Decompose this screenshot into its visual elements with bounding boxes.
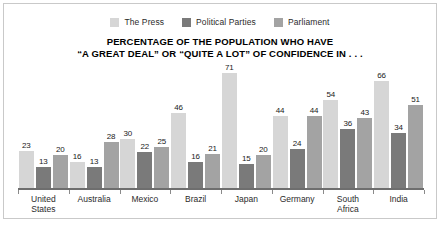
bar bbox=[273, 116, 288, 188]
chart-title-line-2: “A GREAT DEAL” OR “QUITE A LOT” OF CONFI… bbox=[4, 48, 436, 60]
bar-column: 24 bbox=[290, 66, 305, 188]
bar-value-label: 28 bbox=[107, 132, 116, 141]
bar-column: 23 bbox=[19, 66, 34, 188]
bar-value-label: 13 bbox=[39, 157, 48, 166]
bar-column: 28 bbox=[104, 66, 119, 188]
bar-value-label: 46 bbox=[174, 103, 183, 112]
x-axis-label-line: Australia bbox=[69, 194, 120, 204]
bar-column: 44 bbox=[307, 66, 322, 188]
x-axis-category-labels: UnitedStatesAustraliaMexicoBrazilJapanGe… bbox=[18, 194, 424, 214]
bar-column: 46 bbox=[171, 66, 186, 188]
x-axis-label-united-states: UnitedStates bbox=[18, 194, 69, 214]
bar-group: 231320 bbox=[18, 66, 69, 188]
legend-item-the-press: The Press bbox=[110, 17, 164, 27]
bar bbox=[137, 152, 152, 188]
bar-value-label: 16 bbox=[73, 152, 82, 161]
chart-title: PERCENTAGE OF THE POPULATION WHO HAVE “A… bbox=[4, 36, 436, 59]
bar bbox=[205, 154, 220, 188]
legend-swatch-icon bbox=[274, 18, 283, 27]
chart-title-line-1: PERCENTAGE OF THE POPULATION WHO HAVE bbox=[4, 36, 436, 48]
bar-value-label: 30 bbox=[123, 129, 132, 138]
x-axis-label-line: Japan bbox=[221, 194, 272, 204]
bar-column: 66 bbox=[374, 66, 389, 188]
bar-value-label: 34 bbox=[394, 123, 403, 132]
bar-value-label: 22 bbox=[140, 142, 149, 151]
legend-swatch-icon bbox=[182, 18, 191, 27]
bar-column: 44 bbox=[273, 66, 288, 188]
bar bbox=[188, 162, 203, 188]
x-axis-label-line: South bbox=[323, 194, 374, 204]
bar-column: 71 bbox=[222, 66, 237, 188]
x-axis-label-south-africa: SouthAfrica bbox=[323, 194, 374, 214]
x-axis-label-line: India bbox=[373, 194, 424, 204]
bar bbox=[171, 113, 186, 188]
bar-column: 51 bbox=[408, 66, 423, 188]
x-axis-label-line: Africa bbox=[323, 204, 374, 214]
legend-label: Parliament bbox=[288, 17, 330, 27]
bar bbox=[340, 129, 355, 188]
bar-value-label: 20 bbox=[259, 145, 268, 154]
bar-group: 161328 bbox=[69, 66, 120, 188]
bar-group: 461621 bbox=[170, 66, 221, 188]
bar-column: 20 bbox=[53, 66, 68, 188]
bar bbox=[154, 147, 169, 188]
x-axis-label-australia: Australia bbox=[69, 194, 120, 214]
bar bbox=[222, 73, 237, 188]
bar bbox=[87, 167, 102, 188]
bar-column: 16 bbox=[70, 66, 85, 188]
bar-value-label: 66 bbox=[377, 71, 386, 80]
bar-column: 54 bbox=[323, 66, 338, 188]
bar-value-label: 44 bbox=[276, 106, 285, 115]
bar bbox=[357, 118, 372, 188]
bar bbox=[290, 149, 305, 188]
bar-value-label: 36 bbox=[343, 119, 352, 128]
x-axis-label-line: Brazil bbox=[170, 194, 221, 204]
bar-column: 13 bbox=[87, 66, 102, 188]
bar-value-label: 23 bbox=[22, 141, 31, 150]
plot-area: 2313201613283022254616217115204424445436… bbox=[18, 66, 424, 188]
bar-value-label: 54 bbox=[326, 90, 335, 99]
bar-column: 20 bbox=[256, 66, 271, 188]
bar-value-label: 13 bbox=[90, 157, 99, 166]
x-axis-label-germany: Germany bbox=[272, 194, 323, 214]
bar bbox=[70, 162, 85, 188]
bar-value-label: 51 bbox=[411, 95, 420, 104]
bar-value-label: 44 bbox=[310, 106, 319, 115]
chart-legend: The PressPolitical PartiesParliament bbox=[4, 17, 436, 27]
bar bbox=[256, 155, 271, 188]
bar-group: 663451 bbox=[373, 66, 424, 188]
legend-label: The Press bbox=[124, 17, 164, 27]
bar-groups: 2313201613283022254616217115204424445436… bbox=[18, 66, 424, 188]
bar bbox=[53, 155, 68, 188]
bar bbox=[323, 100, 338, 188]
bar-group: 711520 bbox=[221, 66, 272, 188]
legend-swatch-icon bbox=[110, 18, 119, 27]
bar-column: 25 bbox=[154, 66, 169, 188]
x-axis-label-line: United bbox=[18, 194, 69, 204]
bar bbox=[374, 81, 389, 188]
bar-value-label: 25 bbox=[157, 137, 166, 146]
legend-item-parliament: Parliament bbox=[274, 17, 330, 27]
legend-label: Political Parties bbox=[196, 17, 256, 27]
x-axis-label-india: India bbox=[373, 194, 424, 214]
x-axis-label-brazil: Brazil bbox=[170, 194, 221, 214]
bar-value-label: 43 bbox=[360, 108, 369, 117]
bar-column: 43 bbox=[357, 66, 372, 188]
x-axis-label-line: Mexico bbox=[120, 194, 171, 204]
bar-column: 22 bbox=[137, 66, 152, 188]
bar-value-label: 71 bbox=[225, 63, 234, 72]
bar-value-label: 20 bbox=[56, 145, 65, 154]
bar-column: 16 bbox=[188, 66, 203, 188]
legend-item-political-parties: Political Parties bbox=[182, 17, 256, 27]
bar-column: 13 bbox=[36, 66, 51, 188]
bar-value-label: 16 bbox=[191, 152, 200, 161]
bar bbox=[391, 133, 406, 188]
bar bbox=[307, 116, 322, 188]
x-axis-label-line: States bbox=[18, 204, 69, 214]
bar-value-label: 24 bbox=[293, 139, 302, 148]
bar-group: 302225 bbox=[120, 66, 171, 188]
x-axis-tick bbox=[424, 190, 425, 194]
x-axis-label-japan: Japan bbox=[221, 194, 272, 214]
chart-figure: The PressPolitical PartiesParliament PER… bbox=[3, 3, 437, 219]
x-axis-label-line: Germany bbox=[272, 194, 323, 204]
